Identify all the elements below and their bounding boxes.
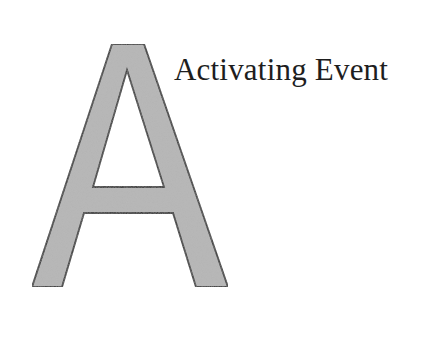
activating-event-label: Activating Event bbox=[174, 52, 388, 88]
